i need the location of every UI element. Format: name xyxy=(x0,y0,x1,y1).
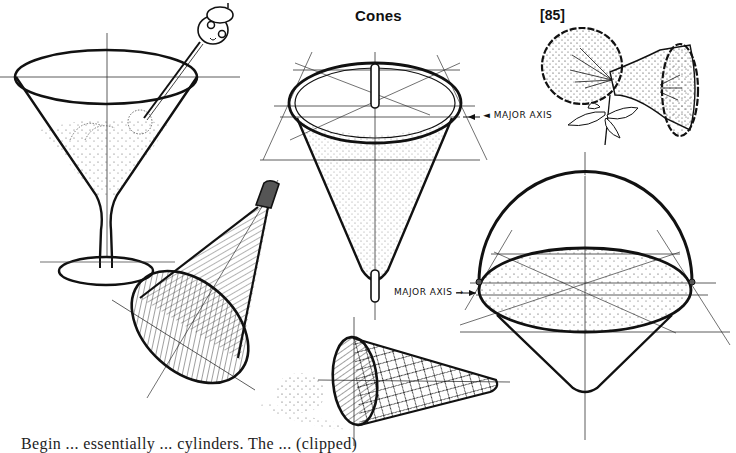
ice-cream-cone xyxy=(260,317,510,446)
major-axis-label-top: ◄ MAJOR AXIS xyxy=(483,110,552,120)
page-title: Cones xyxy=(355,7,402,24)
basket-cone xyxy=(456,152,730,440)
megaphone-cone xyxy=(110,180,279,405)
flowers xyxy=(542,28,698,145)
upright-cone xyxy=(260,52,487,320)
body-text-partial: Begin ... essentially ... cylinders. The… xyxy=(21,435,357,453)
page-number: [85] xyxy=(540,7,565,23)
martini-glass xyxy=(0,3,240,285)
major-axis-label-bottom: MAJOR AXIS → xyxy=(394,287,464,297)
